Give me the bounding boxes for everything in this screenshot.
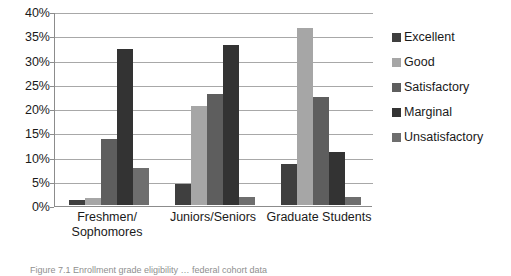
bar (345, 197, 361, 205)
legend-swatch-icon (392, 83, 401, 92)
y-tick-label: 15% (0, 128, 50, 140)
x-axis-category-labels: Freshmen/SophomoresJuniors/SeniorsGradua… (54, 210, 372, 250)
y-tick-label: 25% (0, 80, 50, 92)
legend-label: Satisfactory (404, 81, 469, 94)
y-tick-label: 5% (0, 177, 50, 189)
x-category-label-line: Freshmen/ (54, 210, 160, 225)
bar (281, 164, 297, 205)
legend-item[interactable]: Good (392, 51, 511, 74)
legend-item[interactable]: Excellent (392, 26, 511, 49)
bar (191, 106, 207, 205)
legend-swatch-icon (392, 133, 401, 142)
bar (101, 139, 117, 205)
y-axis: 40%35%30%25%20%15%10%5%0% (0, 0, 50, 220)
y-tick-label: 35% (0, 31, 50, 43)
legend-swatch-icon (392, 58, 401, 67)
y-tick-label: 10% (0, 153, 50, 165)
y-tick-label: 20% (0, 104, 50, 116)
bar (239, 197, 255, 205)
y-tick-label: 30% (0, 56, 50, 68)
bar (133, 168, 149, 205)
bars-layer (56, 13, 372, 205)
legend-label: Good (404, 56, 435, 69)
x-category-label: Juniors/Seniors (160, 210, 266, 225)
legend-swatch-icon (392, 108, 401, 117)
bar (207, 94, 223, 205)
bar (175, 184, 191, 205)
plot-area (54, 13, 372, 207)
x-category-label-line: Graduate Students (266, 210, 372, 225)
bar (223, 45, 239, 205)
x-category-label: Freshmen/Sophomores (54, 210, 160, 240)
bar (297, 28, 313, 206)
bar (329, 152, 345, 205)
bar (117, 49, 133, 205)
y-tick-mark (50, 207, 54, 208)
y-tick-label: 40% (0, 7, 50, 19)
x-category-label: Graduate Students (266, 210, 372, 225)
legend-item[interactable]: Unsatisfactory (392, 126, 511, 149)
legend-item[interactable]: Satisfactory (392, 76, 511, 99)
x-category-label-line: Juniors/Seniors (160, 210, 266, 225)
y-tick-label: 0% (0, 201, 50, 213)
bar (85, 198, 101, 205)
legend-item[interactable]: Marginal (392, 101, 511, 124)
legend-label: Unsatisfactory (404, 131, 483, 144)
x-category-label-line: Sophomores (54, 225, 160, 240)
bar (69, 200, 85, 205)
bar (313, 97, 329, 205)
legend-swatch-icon (392, 33, 401, 42)
figure-caption: Figure 7.1 Enrollment grade eligibility … (30, 265, 490, 276)
legend-label: Marginal (404, 106, 452, 119)
chart-legend: ExcellentGoodSatisfactoryMarginalUnsatis… (392, 26, 511, 151)
bar-chart-figure: 40%35%30%25%20%15%10%5%0% Freshmen/Sopho… (0, 0, 511, 276)
legend-label: Excellent (404, 31, 455, 44)
